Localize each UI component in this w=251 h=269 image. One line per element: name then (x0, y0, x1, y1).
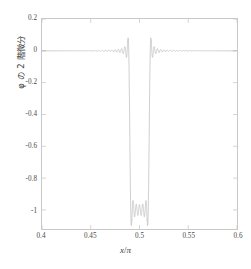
xtick-label: 0.5 (135, 232, 144, 240)
ytick-label: 0 (33, 46, 37, 54)
plot-canvas (42, 19, 237, 229)
figure: 0.4 0.45 0.5 0.55 0.6 0.2 0 -0.2 -0.4 -0… (0, 0, 251, 269)
ytick-label: 0.2 (28, 14, 37, 22)
y-axis-label: φ の 2 階微分 (14, 2, 26, 122)
ytick-label: -1 (31, 207, 37, 215)
x-axis-label-pi: π (127, 245, 132, 255)
xtick-label: 0.55 (182, 232, 195, 240)
ytick-label: -0.2 (26, 78, 37, 86)
ytick-label: -0.4 (26, 110, 37, 118)
xtick-label: 0.4 (37, 232, 46, 240)
xtick-label: 0.6 (234, 232, 243, 240)
ytick-label: -0.8 (26, 175, 37, 183)
xtick-label: 0.45 (84, 232, 97, 240)
data-series-line (42, 38, 237, 226)
plot-area[interactable] (41, 18, 238, 230)
ytick-label: -0.6 (26, 142, 37, 150)
x-axis-label: x/π (0, 245, 251, 255)
